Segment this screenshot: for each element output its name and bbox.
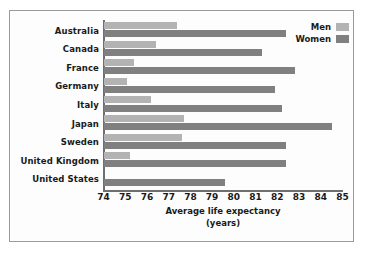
chart-legend: MenWomen — [295, 21, 349, 45]
category-label: Germany — [55, 81, 99, 91]
x-axis-line — [103, 190, 343, 192]
category-label: United Kingdom — [20, 156, 99, 166]
bar-women — [104, 105, 282, 112]
bar-women — [104, 160, 287, 167]
x-tick-label: 76 — [141, 192, 154, 202]
bar-women — [104, 142, 287, 149]
bar-women — [104, 49, 263, 56]
bar-women — [104, 67, 295, 74]
x-tick-label: 82 — [271, 192, 284, 202]
x-tick-label: 85 — [336, 192, 349, 202]
bar-men — [104, 22, 178, 29]
bar-women — [104, 179, 226, 186]
bar-men — [104, 96, 152, 103]
x-tick-label: 77 — [162, 192, 175, 202]
x-tick-label: 79 — [206, 192, 219, 202]
bar-women — [104, 123, 332, 130]
legend-label: Women — [295, 34, 331, 44]
category-label: Canada — [63, 44, 99, 54]
x-tick-label: 80 — [228, 192, 241, 202]
x-tick-label: 78 — [184, 192, 197, 202]
legend-label: Men — [311, 22, 331, 32]
x-tick-label: 74 — [97, 192, 110, 202]
chart-plot-area: AustraliaCanadaFranceGermanyItalyJapanSw… — [10, 11, 355, 243]
bar-men — [104, 59, 134, 66]
bar-men — [104, 115, 184, 122]
category-label: Italy — [77, 100, 99, 110]
x-tick-label: 84 — [315, 192, 328, 202]
x-axis-title-line: (years) — [103, 217, 343, 229]
legend-swatch — [336, 23, 349, 31]
bar-men — [104, 152, 130, 159]
x-tick-label: 83 — [293, 192, 306, 202]
bar-women — [104, 86, 276, 93]
bar-women — [104, 30, 287, 37]
x-tick-label: 75 — [119, 192, 132, 202]
legend-item: Women — [295, 33, 349, 45]
x-axis-title: Average life expectancy(years) — [103, 205, 343, 229]
category-label: Australia — [55, 26, 99, 36]
bar-men — [104, 134, 182, 141]
chart-frame: AustraliaCanadaFranceGermanyItalyJapanSw… — [9, 10, 354, 242]
category-label: France — [66, 63, 99, 73]
x-tick-label: 81 — [249, 192, 262, 202]
bar-men — [104, 78, 128, 85]
bar-men — [104, 41, 156, 48]
x-axis-title-line: Average life expectancy — [103, 205, 343, 217]
category-label: Sweden — [61, 137, 99, 147]
legend-swatch — [336, 35, 349, 43]
category-label: Japan — [72, 119, 99, 129]
legend-item: Men — [295, 21, 349, 33]
category-label: United States — [32, 174, 99, 184]
